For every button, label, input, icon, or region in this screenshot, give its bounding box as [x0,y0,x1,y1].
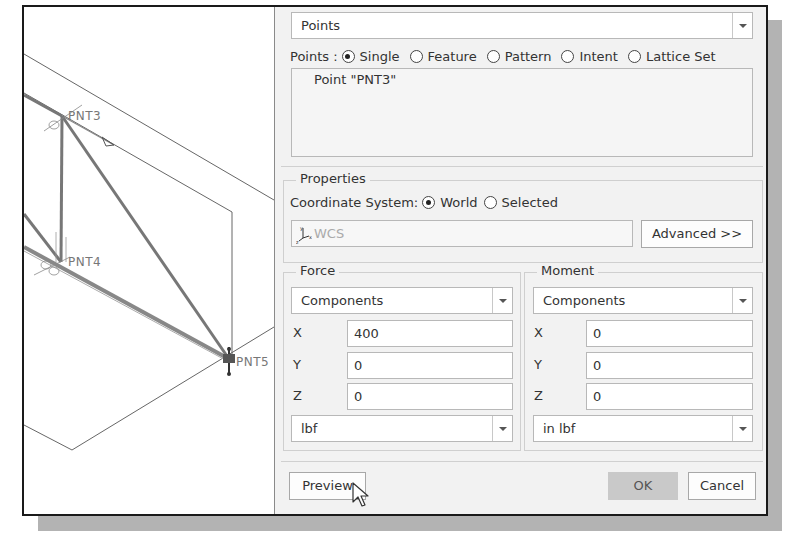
section-divider [281,166,763,167]
moment-z-value: 0 [593,389,601,404]
radio-unselected-icon [561,50,574,63]
force-x-input[interactable]: 400 [347,320,513,347]
force-title: Force [296,263,339,278]
radio-lattice-set-label: Lattice Set [646,49,716,64]
radio-selected-label: Selected [502,195,558,210]
radio-intent[interactable]: Intent [557,49,618,64]
points-filter-group: Points : Single Feature Pattern Intent L… [290,49,722,64]
force-y-label: Y [293,357,301,372]
point-label-pnt3[interactable]: PNT3 [68,109,101,123]
radio-single[interactable]: Single [338,49,400,64]
force-z-value: 0 [354,389,362,404]
application-window: PNT3 PNT4 PNT5 Points Points : Single Fe… [22,5,768,516]
selection-type-value: Points [301,18,340,33]
radio-lattice-set[interactable]: Lattice Set [624,49,716,64]
chevron-down-icon [499,299,507,303]
coordinate-system-value: WCS [314,226,344,241]
points-filter-label: Points : [290,49,338,64]
dropdown-button[interactable] [492,416,512,441]
moment-x-value: 0 [593,326,601,341]
point-label-pnt5[interactable]: PNT5 [236,355,269,369]
moment-unit-dropdown[interactable]: in lbf [533,415,753,442]
dropdown-button[interactable] [732,13,752,38]
svg-text:y: y [300,225,303,232]
truss-model-graphic [24,7,274,514]
force-x-value: 400 [354,326,379,341]
moment-y-label: Y [534,357,542,372]
model-viewport[interactable]: PNT3 PNT4 PNT5 [24,7,274,514]
force-y-value: 0 [354,358,362,373]
radio-selected-icon [422,196,435,209]
radio-world[interactable]: World [418,195,477,210]
force-unit-value: lbf [301,421,317,436]
chevron-down-icon [739,427,747,431]
advanced-button[interactable]: Advanced >> [641,220,753,248]
force-mode-dropdown[interactable]: Components [291,287,513,314]
radio-pattern[interactable]: Pattern [483,49,552,64]
force-moment-dialog: Points Points : Single Feature Pattern I… [274,7,768,514]
list-item[interactable]: Point "PNT3" [314,72,396,87]
dropdown-button[interactable] [732,416,752,441]
radio-pattern-label: Pattern [505,49,552,64]
radio-selected[interactable]: Selected [484,195,558,210]
coordinate-system-field[interactable]: y x z WCS [291,220,633,247]
radio-unselected-icon [487,50,500,63]
coordinate-system-group: Coordinate System: World Selected [290,195,564,210]
moment-z-input[interactable]: 0 [586,383,753,410]
moment-unit-value: in lbf [543,421,575,436]
svg-text:z: z [296,239,299,244]
ok-button[interactable]: OK [608,472,678,500]
chevron-down-icon [739,24,747,28]
moment-y-value: 0 [593,358,601,373]
properties-title: Properties [296,171,370,186]
radio-unselected-icon [410,50,423,63]
chevron-down-icon [739,299,747,303]
force-unit-dropdown[interactable]: lbf [291,415,513,442]
moment-z-label: Z [534,388,543,403]
coordinate-system-label: Coordinate System: [290,195,418,210]
radio-world-label: World [440,195,477,210]
force-mode-value: Components [301,293,383,308]
radio-feature[interactable]: Feature [406,49,477,64]
dropdown-button[interactable] [492,288,512,313]
csys-icon: y x z [296,224,312,244]
radio-unselected-icon [484,196,497,209]
radio-single-label: Single [360,49,400,64]
radio-selected-icon [342,50,355,63]
radio-intent-label: Intent [579,49,618,64]
selected-points-list[interactable]: Point "PNT3" [291,68,753,157]
radio-unselected-icon [628,50,641,63]
moment-title: Moment [537,263,598,278]
moment-mode-value: Components [543,293,625,308]
chevron-down-icon [499,427,507,431]
moment-mode-dropdown[interactable]: Components [533,287,753,314]
radio-feature-label: Feature [428,49,477,64]
point-label-pnt4[interactable]: PNT4 [68,255,101,269]
moment-x-label: X [534,325,543,340]
force-z-label: Z [293,388,302,403]
force-y-input[interactable]: 0 [347,352,513,379]
moment-x-input[interactable]: 0 [586,320,753,347]
dropdown-button[interactable] [732,288,752,313]
cancel-button[interactable]: Cancel [688,472,756,500]
mouse-pointer-icon [352,482,370,508]
selection-type-dropdown[interactable]: Points [291,12,753,39]
footer-divider [281,461,763,462]
moment-y-input[interactable]: 0 [586,352,753,379]
force-z-input[interactable]: 0 [347,383,513,410]
force-x-label: X [293,325,302,340]
svg-text:x: x [309,234,312,240]
